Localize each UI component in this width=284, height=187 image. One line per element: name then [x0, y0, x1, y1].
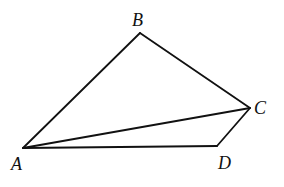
vertex-label-b: B — [132, 10, 143, 30]
vertex-label-d: D — [217, 153, 231, 173]
segment-bc — [140, 33, 250, 108]
vertex-label-a: A — [10, 154, 23, 174]
diagram-svg: A B C D — [0, 0, 284, 187]
vertex-label-c: C — [254, 98, 267, 118]
geometry-diagram: A B C D — [0, 0, 284, 187]
segment-da — [23, 146, 217, 148]
